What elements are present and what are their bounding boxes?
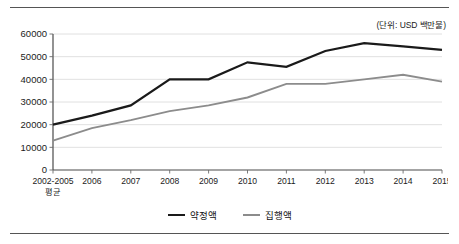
y-axis-tick-label: 0 xyxy=(42,164,47,175)
x-axis-tick-sublabel: 평균 xyxy=(45,187,61,197)
x-axis-tick-label: 2006 xyxy=(82,176,101,186)
x-axis-tick-label: 2013 xyxy=(355,176,374,186)
legend-swatch-series-1 xyxy=(243,214,260,216)
y-axis-tick-label: 60000 xyxy=(21,28,47,39)
x-axis-tick-label: 2014 xyxy=(394,176,413,186)
x-axis-tick-label: 2007 xyxy=(121,176,140,186)
legend-item-series-0: 약정액 xyxy=(168,208,217,222)
chart-figure: (단위: USD 백만불) 01000020000300004000050000… xyxy=(0,0,459,244)
legend-swatch-series-0 xyxy=(168,214,185,216)
x-axis-tick-label: 2011 xyxy=(277,176,296,186)
x-axis-tick-label: 2009 xyxy=(199,176,218,186)
legend-label-series-0: 약정액 xyxy=(190,208,217,222)
y-axis-tick-label: 40000 xyxy=(21,74,47,85)
y-axis-tick-label: 20000 xyxy=(21,119,47,130)
legend-label-series-1: 집행액 xyxy=(265,208,292,222)
chart-legend: 약정액 집행액 xyxy=(0,208,459,222)
x-axis-tick-label: 2008 xyxy=(160,176,179,186)
x-axis-tick-label: 2012 xyxy=(316,176,335,186)
x-axis-tick-label: 2010 xyxy=(238,176,257,186)
legend-item-series-1: 집행액 xyxy=(243,208,292,222)
top-divider-rule xyxy=(10,7,449,8)
plot-area: 01000020000300004000050000600002002-2005… xyxy=(11,28,448,204)
y-axis-tick-label: 30000 xyxy=(21,96,47,107)
series-line-0 xyxy=(53,43,442,125)
bottom-divider-rule xyxy=(10,233,449,234)
series-line-1 xyxy=(53,75,442,141)
x-axis-tick-label: 2015 xyxy=(432,176,448,186)
y-axis-tick-label: 50000 xyxy=(21,51,47,62)
line-chart-svg: 01000020000300004000050000600002002-2005… xyxy=(11,28,448,204)
y-axis-tick-label: 10000 xyxy=(21,142,47,153)
x-axis-tick-label: 2002-2005 xyxy=(32,176,73,186)
